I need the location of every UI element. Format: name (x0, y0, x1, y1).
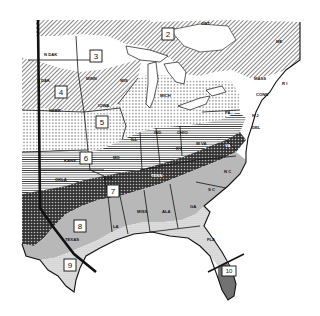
state-label-miss: MISS (137, 209, 147, 214)
svg-text:4: 4 (59, 88, 64, 97)
state-label-ky: KY (176, 146, 182, 151)
state-label-la: LA (113, 224, 119, 229)
state-label-mich: MICH (160, 93, 171, 98)
state-label-pa: PA (225, 110, 231, 115)
state-label-okla: OKLA (55, 177, 67, 182)
state-label-ind: IND (154, 130, 161, 135)
zone-label-4: 4 (55, 86, 67, 98)
state-label-n-dak: N DAK (44, 52, 57, 57)
zone-label-3: 3 (90, 50, 102, 62)
state-label-texas: TEXAS (65, 237, 79, 242)
svg-text:3: 3 (94, 52, 99, 61)
state-label-conn: CONN (256, 92, 268, 97)
state-label-tenn: TENN (151, 173, 162, 178)
state-label-ill: ILL (131, 137, 138, 142)
zone-label-8: 8 (74, 220, 86, 232)
state-label-mo: MO (113, 155, 120, 160)
state-label-va: VA (225, 143, 231, 148)
zone-label-6: 6 (80, 152, 92, 164)
state-label-ohio: OHIO (177, 130, 188, 135)
state-label-ark: ARK (104, 176, 113, 181)
zone-label-10: 10 (222, 266, 236, 276)
zone-label-7: 7 (107, 185, 119, 197)
zone-label-5: 5 (96, 116, 108, 128)
state-label-ont: ONT (201, 21, 210, 26)
state-label-n-c: N C (224, 169, 231, 174)
state-label-del: DEL (252, 125, 261, 130)
state-label-nebr: NEBR (49, 108, 61, 113)
state-label-minn: MINN (86, 76, 97, 81)
svg-text:7: 7 (111, 187, 116, 196)
svg-text:5: 5 (100, 118, 105, 127)
state-label-mass: MASS (254, 76, 266, 81)
state-label-iowa: IOWA (98, 103, 109, 108)
svg-text:10: 10 (226, 268, 233, 274)
svg-text:2: 2 (166, 30, 171, 39)
state-label-fla: FLA (207, 237, 215, 242)
state-label-ala: ALA (162, 209, 171, 214)
svg-text:9: 9 (68, 261, 73, 270)
state-label-me: ME (276, 39, 282, 44)
svg-text:6: 6 (84, 154, 89, 163)
zone-label-2: 2 (162, 28, 174, 40)
state-label-kans: KANS (64, 158, 76, 163)
state-labels: N DAK S DAK NEBR MINN WIS IOWA KANS MO I… (37, 21, 287, 242)
zone-label-9: 9 (64, 259, 76, 271)
state-label-w-va: W VA (196, 141, 207, 146)
state-label-ga: GA (190, 204, 196, 209)
state-label-s-dak: S DAK (37, 78, 50, 83)
state-label-n-j: N J (252, 113, 259, 118)
svg-text:8: 8 (78, 222, 83, 231)
state-label-wis: WIS (120, 78, 128, 83)
state-label-r-i: R I (282, 81, 287, 86)
state-label-s-c: S C (208, 187, 215, 192)
